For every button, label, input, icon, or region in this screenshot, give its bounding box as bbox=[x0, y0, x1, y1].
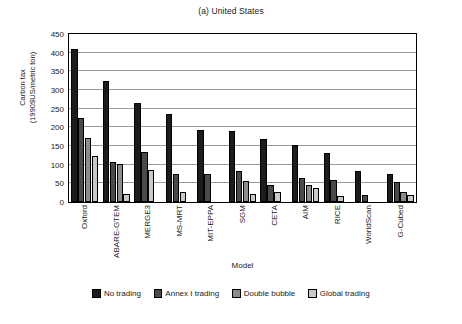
bar bbox=[92, 156, 98, 202]
y-tick-label: 200 bbox=[30, 123, 64, 132]
bar bbox=[355, 171, 361, 202]
bar bbox=[78, 118, 84, 202]
bar bbox=[197, 130, 203, 202]
x-tick-label: SGM bbox=[238, 205, 247, 223]
bar bbox=[292, 145, 298, 202]
y-tick-label: 100 bbox=[30, 160, 64, 169]
bar-cluster bbox=[69, 34, 101, 202]
bar bbox=[330, 180, 336, 202]
bar bbox=[110, 162, 116, 202]
bar bbox=[148, 170, 154, 202]
x-tick-label: ABARE-GTEM bbox=[112, 205, 121, 258]
legend-swatch-icon bbox=[232, 289, 241, 298]
legend-item[interactable]: Global trading bbox=[308, 289, 369, 298]
bar-cluster bbox=[195, 34, 227, 202]
bar bbox=[85, 138, 91, 202]
bar bbox=[123, 194, 129, 202]
y-tick-label: 0 bbox=[30, 198, 64, 207]
x-tick-label: AIM bbox=[301, 205, 310, 219]
bar bbox=[229, 131, 235, 202]
chart-title: (a) United States bbox=[0, 6, 462, 16]
legend-swatch-icon bbox=[308, 289, 317, 298]
bar-cluster bbox=[227, 34, 259, 202]
bar bbox=[173, 174, 179, 202]
bar-cluster bbox=[132, 34, 164, 202]
bar-cluster bbox=[290, 34, 322, 202]
y-axis-title-line1: Carbon tax bbox=[18, 40, 28, 136]
bar-cluster bbox=[353, 34, 385, 202]
bar bbox=[250, 194, 256, 202]
bar-cluster bbox=[258, 34, 290, 202]
bar bbox=[141, 152, 147, 202]
x-axis-tick-labels: OxfordABARE-GTEMMERGE3MS-MRTMIT-EPPASGMC… bbox=[69, 205, 416, 257]
chart-legend: No tradingAnnex I tradingDouble bubbleGl… bbox=[0, 289, 462, 298]
bar bbox=[267, 185, 273, 202]
x-tick-label: MS-MRT bbox=[175, 205, 184, 237]
y-tick-label: 350 bbox=[30, 67, 64, 76]
bar bbox=[134, 103, 140, 202]
legend-item[interactable]: Annex I trading bbox=[154, 289, 219, 298]
bar bbox=[400, 192, 406, 202]
y-axis-tick-labels: 050100150200250300350400450 bbox=[30, 33, 64, 203]
legend-label: Double bubble bbox=[244, 289, 296, 298]
y-tick-label: 300 bbox=[30, 86, 64, 95]
bar bbox=[387, 174, 393, 202]
x-tick-label: WorldScan bbox=[364, 205, 373, 244]
bars-layer bbox=[69, 34, 416, 202]
bar bbox=[299, 178, 305, 202]
bar bbox=[166, 114, 172, 202]
bar bbox=[71, 49, 77, 202]
legend-swatch-icon bbox=[92, 289, 101, 298]
legend-label: Global trading bbox=[320, 289, 370, 298]
y-tick-label: 150 bbox=[30, 142, 64, 151]
x-tick-label: MIT-EPPA bbox=[206, 205, 215, 242]
y-tick-label: 250 bbox=[30, 104, 64, 113]
bar bbox=[337, 196, 343, 202]
bar bbox=[313, 188, 319, 202]
x-tick-label: RICE bbox=[333, 205, 342, 224]
bar bbox=[362, 195, 368, 202]
bar-cluster bbox=[321, 34, 353, 202]
bar bbox=[407, 195, 413, 202]
bar bbox=[180, 192, 186, 202]
bar bbox=[394, 182, 400, 202]
y-tick-label: 50 bbox=[30, 179, 64, 188]
x-axis-title: Model bbox=[68, 261, 417, 270]
bar-cluster bbox=[384, 34, 416, 202]
x-tick-label: CETA bbox=[270, 205, 279, 226]
bar bbox=[103, 81, 109, 202]
bar bbox=[260, 139, 266, 202]
legend-swatch-icon bbox=[154, 289, 163, 298]
bar bbox=[274, 192, 280, 202]
bar bbox=[204, 174, 210, 202]
legend-item[interactable]: No trading bbox=[92, 289, 140, 298]
bar-cluster bbox=[164, 34, 196, 202]
x-tick-label: G-Cubed bbox=[396, 205, 405, 237]
legend-item[interactable]: Double bubble bbox=[232, 289, 295, 298]
y-tick-label: 450 bbox=[30, 30, 64, 39]
bar bbox=[236, 171, 242, 202]
x-tick-label: MERGE3 bbox=[143, 205, 152, 239]
bar bbox=[243, 181, 249, 202]
legend-label: No trading bbox=[104, 289, 141, 298]
x-tick-label: Oxford bbox=[80, 205, 89, 229]
y-tick-label: 400 bbox=[30, 48, 64, 57]
bar bbox=[324, 153, 330, 202]
bar bbox=[117, 164, 123, 202]
legend-label: Annex I trading bbox=[165, 289, 219, 298]
bar-cluster bbox=[101, 34, 133, 202]
chart-figure: (a) United States Carbon tax (1990$US/me… bbox=[0, 0, 462, 324]
bar bbox=[306, 185, 312, 202]
